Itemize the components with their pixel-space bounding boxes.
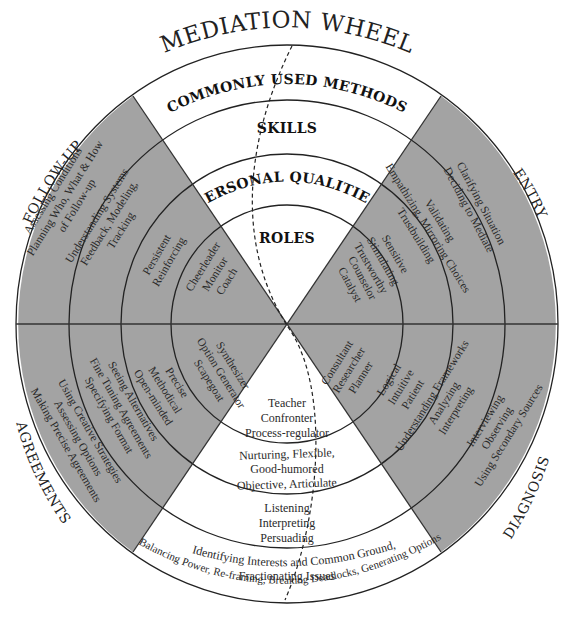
negotiation-qualities: Nurturing, Flexible, Good-humored Object… [237, 445, 337, 492]
negotiation-roles: Teacher Confronter Process-regulator [245, 396, 329, 440]
layer-skills-label: SKILLS [257, 120, 317, 136]
svg-text:Persuading: Persuading [260, 531, 313, 545]
svg-text:Teacher: Teacher [268, 396, 306, 410]
layer-roles-label: ROLES [259, 230, 315, 246]
mediation-wheel-diagram: MEDIATION WHEEL COMMONLY USED METHODS SK… [0, 0, 570, 617]
negotiation-skills: Listening Interpreting Persuading [259, 501, 316, 545]
wheel-title: MEDIATION WHEEL [156, 6, 418, 58]
svg-text:Good-humored: Good-humored [250, 462, 323, 476]
svg-text:Nurturing, Flexible,: Nurturing, Flexible, [239, 445, 335, 462]
layer-methods-label: COMMONLY USED METHODS [164, 71, 410, 116]
svg-text:Interpreting: Interpreting [259, 516, 316, 530]
svg-text:Listening: Listening [264, 501, 309, 515]
svg-text:Process-regulator: Process-regulator [245, 426, 329, 440]
svg-text:Confronter: Confronter [261, 411, 314, 425]
